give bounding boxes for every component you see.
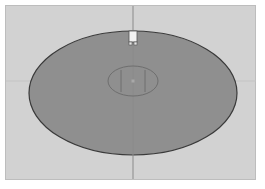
top-handle-icon[interactable] xyxy=(129,31,137,42)
top-handle-left-foot-icon xyxy=(129,42,132,45)
top-handle-right-foot-icon xyxy=(134,42,137,45)
pivot-center-icon xyxy=(132,80,135,83)
scene-canvas[interactable] xyxy=(0,0,265,189)
